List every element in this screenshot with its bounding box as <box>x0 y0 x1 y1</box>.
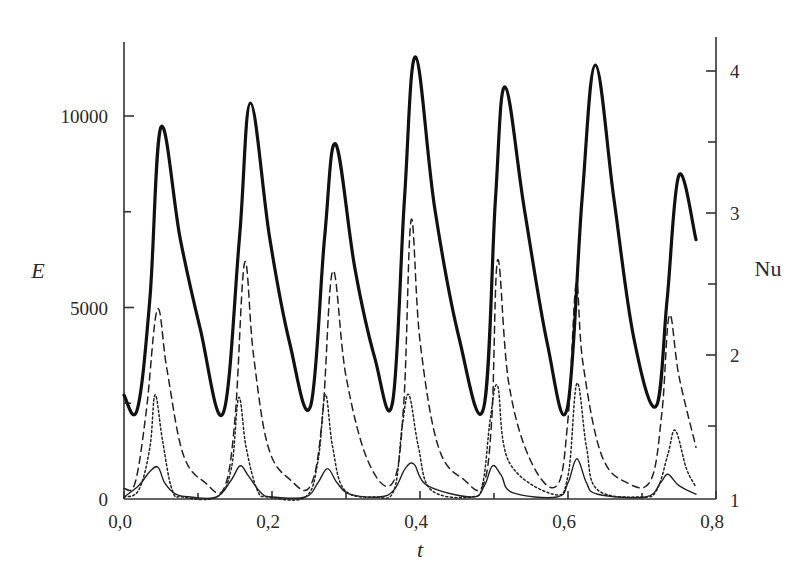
x-tick-label: 0,8 <box>700 511 724 532</box>
right-y-tick-label: 2 <box>730 345 740 366</box>
x-tick-label: 0,6 <box>552 511 576 532</box>
plot-series <box>124 57 696 500</box>
series-dotted-line <box>124 383 696 500</box>
x-tick-label: 0,4 <box>404 511 428 532</box>
series-thin-solid-line <box>124 459 696 499</box>
x-tick-label: 0,2 <box>256 511 280 532</box>
right-y-tick-label: 4 <box>730 61 740 82</box>
left-y-axis-title: E <box>30 258 45 283</box>
right-y-tick-label: 3 <box>730 203 740 224</box>
y-tick-label: 0 <box>99 489 109 510</box>
right-y-axis-title: Nu <box>755 256 782 281</box>
right-y-ticks: 1234 <box>706 61 740 511</box>
left-y-ticks: 0500010000 <box>61 106 135 510</box>
chart: 0,00,20,40,60,8 0500010000 1234 E Nu t <box>0 0 810 585</box>
x-axis-title: t <box>417 537 424 562</box>
y-tick-label: 5000 <box>70 298 108 319</box>
axes <box>124 37 716 499</box>
series-dashed-line <box>124 219 696 493</box>
x-tick-label: 0,0 <box>108 511 132 532</box>
y-tick-label: 10000 <box>61 106 109 127</box>
right-y-tick-label: 1 <box>730 490 740 511</box>
